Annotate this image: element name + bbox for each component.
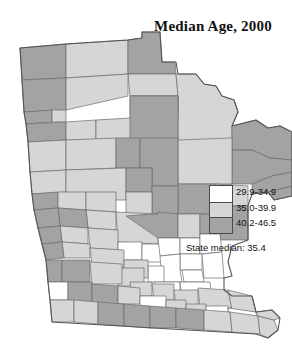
county-anoka xyxy=(180,254,202,270)
legend-row xyxy=(210,217,232,233)
county-swift xyxy=(60,226,88,244)
county-ramsey xyxy=(182,270,204,282)
county-stevens xyxy=(58,208,88,228)
legend-label-2: 35.0-39.9 xyxy=(236,200,276,216)
map-figure: Median Age, 2000 29.9-34.935.0-39.940.2-… xyxy=(0,0,292,351)
county-pipestone xyxy=(48,282,68,300)
state-median-note: State median: 35.4 xyxy=(186,242,266,253)
county-sherburne xyxy=(158,238,180,256)
county-freeborn xyxy=(176,308,204,330)
county-pennington xyxy=(24,110,52,124)
county-becker xyxy=(66,138,116,170)
legend-swatch-stack xyxy=(209,185,233,234)
county-nobles xyxy=(74,300,98,324)
legend-divider xyxy=(210,217,232,218)
county-grant xyxy=(58,192,86,210)
county-marshall xyxy=(22,78,66,112)
county-redwood xyxy=(90,262,122,284)
county-rock xyxy=(50,300,74,322)
county-clay xyxy=(28,140,66,172)
county-beltrami-south xyxy=(130,96,178,140)
county-red-lake xyxy=(52,110,66,122)
county-crow-wing xyxy=(152,186,178,214)
county-faribault xyxy=(150,306,176,328)
county-itasca xyxy=(178,138,232,184)
county-lyon xyxy=(62,260,90,282)
county-kandiyohi xyxy=(88,228,118,250)
legend-swatch-1 xyxy=(210,186,232,202)
county-mille-lacs xyxy=(178,214,200,238)
county-jackson xyxy=(98,302,124,326)
county-roseau xyxy=(66,40,128,78)
county-beltrami-north xyxy=(128,74,178,96)
county-chippewa xyxy=(62,242,90,258)
county-cottonwood xyxy=(92,284,118,304)
legend-divider xyxy=(210,202,232,203)
county-mower xyxy=(204,310,232,332)
legend-swatch-2 xyxy=(210,202,232,218)
county-big-stone xyxy=(34,208,60,228)
county-martin xyxy=(124,304,150,328)
county-polk xyxy=(66,74,128,110)
legend-row xyxy=(210,202,232,218)
county-traverse xyxy=(32,192,58,210)
legend-label-1: 29.9-34.9 xyxy=(236,184,276,200)
county-lincoln xyxy=(46,260,62,282)
county-hubbard xyxy=(116,138,140,168)
county-kittson xyxy=(20,44,66,80)
county-wadena xyxy=(126,168,152,192)
county-norman xyxy=(26,122,66,142)
county-fillmore xyxy=(230,312,260,334)
legend-row xyxy=(210,186,232,202)
county-douglas xyxy=(86,192,116,212)
county-pope xyxy=(86,210,116,230)
county-brown xyxy=(118,286,140,304)
legend-label-3: 40.2-46.5 xyxy=(236,215,276,231)
minnesota-choropleth-map xyxy=(0,0,292,351)
legend-swatch-3 xyxy=(210,217,232,233)
county-murray xyxy=(68,282,92,302)
county-lake-of-the-woods xyxy=(128,32,176,74)
county-carver xyxy=(148,266,164,282)
county-wilkin xyxy=(30,170,66,194)
county-mahnomen xyxy=(66,120,96,140)
county-washington xyxy=(202,252,224,278)
